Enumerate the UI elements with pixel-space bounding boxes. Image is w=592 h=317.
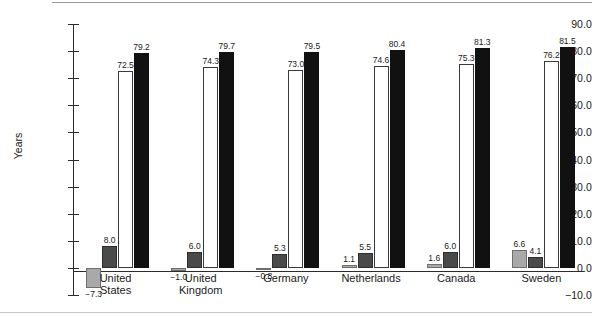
bar-group: 6.64.176.281.5 xyxy=(499,24,584,295)
bar-dark-gray[interactable] xyxy=(187,252,202,268)
bar-dark-gray[interactable] xyxy=(358,253,373,268)
category-label: Canada xyxy=(414,272,499,285)
bar-value-label: 79.2 xyxy=(130,43,153,52)
bar-black[interactable] xyxy=(390,50,405,268)
bar-dark-gray[interactable] xyxy=(272,254,287,268)
category-label: United States xyxy=(73,272,158,297)
y-axis-title: Years xyxy=(12,116,24,176)
bar-light-gray[interactable] xyxy=(427,264,442,268)
bar-white[interactable] xyxy=(203,67,218,268)
category-label: Sweden xyxy=(499,272,584,285)
bar-black[interactable] xyxy=(134,53,149,268)
bar-black[interactable] xyxy=(560,47,575,268)
bar-black[interactable] xyxy=(219,52,234,268)
bar-group: −7.38.072.579.2 xyxy=(73,24,158,295)
bar-dark-gray[interactable] xyxy=(528,257,543,268)
bar-value-label: 81.3 xyxy=(471,38,494,47)
bar-group: −1.06.074.379.7 xyxy=(158,24,243,295)
bar-group: 1.66.075.381.3 xyxy=(414,24,499,295)
bar-black[interactable] xyxy=(304,52,319,267)
bar-white[interactable] xyxy=(288,70,303,268)
bar-group: 1.15.574.680.4 xyxy=(329,24,414,295)
category-label: United Kingdom xyxy=(158,272,243,297)
bar-group: −0.85.373.079.5 xyxy=(243,24,328,295)
bar-white[interactable] xyxy=(544,61,559,268)
bar-light-gray[interactable] xyxy=(342,265,357,268)
bar-light-gray[interactable] xyxy=(171,268,186,271)
bar-white[interactable] xyxy=(374,66,389,268)
bar-value-label: 80.4 xyxy=(386,40,409,49)
bar-white[interactable] xyxy=(118,71,133,267)
bar-black[interactable] xyxy=(475,48,490,268)
bar-dark-gray[interactable] xyxy=(443,252,458,268)
bar-value-label: 81.5 xyxy=(556,37,579,46)
plot-area: −7.38.072.579.2−1.06.074.379.7−0.85.373.… xyxy=(73,24,584,295)
category-label: Netherlands xyxy=(329,272,414,285)
top-border-rule xyxy=(52,2,592,3)
bar-light-gray[interactable] xyxy=(256,268,271,270)
bar-chart: Years 90.080.070.060.050.040.030.020.010… xyxy=(0,0,592,317)
bar-dark-gray[interactable] xyxy=(102,246,117,268)
bar-value-label: 79.5 xyxy=(300,42,323,51)
bar-value-label: 79.7 xyxy=(215,42,238,51)
bottom-border-rule xyxy=(0,312,592,313)
category-label: Germany xyxy=(243,272,328,285)
bar-white[interactable] xyxy=(459,64,474,268)
